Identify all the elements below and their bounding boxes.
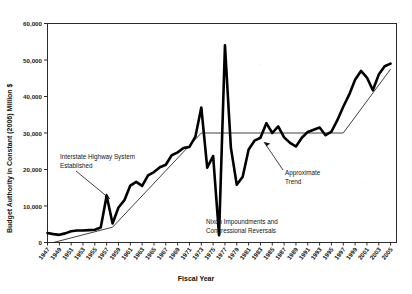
y-tick-label: 20,000 (23, 166, 42, 173)
annotation-nixon-impoundments: Nixon Impoundments and Congressional Rev… (206, 218, 278, 235)
y-tick-label: 50,000 (23, 57, 42, 64)
y-tick-label: 0 (39, 239, 43, 246)
y-tick-label: 60,000 (23, 20, 42, 27)
y-tick-label: 40,000 (23, 93, 42, 100)
y-tick-label: 30,000 (23, 130, 42, 137)
y-tick-label: 10,000 (23, 203, 42, 210)
annotation-text-line2: Congressional Reversals (206, 227, 276, 235)
annotation-text-line1: Nixon Impoundments and (206, 218, 278, 226)
annotation-text-line2: Trend (285, 178, 302, 185)
x-axis-title: Fiscal Year (178, 275, 215, 282)
annotation-text-line1: Interstate Highway System (60, 153, 135, 161)
chart-figure: 0 10,000 20,000 30,000 40,000 50,000 60,… (0, 0, 412, 294)
annotation-text-line1: Approximate (285, 169, 321, 177)
annotation-text-line2: Established (60, 162, 93, 169)
y-axis-title: Budget Authority in Constant (2006) Mill… (6, 83, 14, 233)
chart-svg: 0 10,000 20,000 30,000 40,000 50,000 60,… (0, 0, 412, 294)
